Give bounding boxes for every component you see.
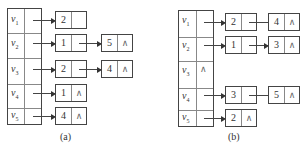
list-node: 4∧ — [268, 13, 300, 31]
pointer-arrow — [204, 95, 225, 96]
pointer-arrow — [33, 93, 55, 94]
pointer-arrow — [33, 69, 55, 70]
list-node: 5∧ — [101, 34, 133, 52]
vertex-label: v4 — [11, 87, 18, 100]
vertex-label: v5 — [11, 109, 18, 122]
pointer-arrow — [33, 43, 55, 44]
null-pointer-icon: ∧ — [200, 64, 207, 74]
vertex-label: v2 — [11, 37, 18, 50]
caption-b: (b) — [228, 131, 240, 142]
caption-a: (a) — [60, 131, 71, 142]
pointer-arrow — [204, 118, 225, 119]
vertex-label: v3 — [11, 63, 18, 76]
list-node: 5∧ — [268, 86, 300, 104]
vertex-label: v4 — [182, 90, 189, 103]
vertex-label: v1 — [11, 13, 18, 26]
pointer-arrow — [249, 22, 268, 23]
pointer-arrow — [79, 43, 101, 44]
pointer-arrow — [249, 45, 268, 46]
list-node: 2 — [55, 11, 87, 29]
list-node: 3∧ — [268, 36, 300, 54]
vertex-label: v1 — [182, 14, 189, 27]
pointer-arrow — [33, 20, 55, 21]
list-node: 4∧ — [101, 60, 133, 78]
pointer-arrow — [249, 95, 268, 96]
vertex-label: v3 — [182, 64, 189, 77]
pointer-arrow — [204, 45, 225, 46]
list-node: 1∧ — [55, 84, 87, 102]
vertex-label: v5 — [182, 111, 189, 124]
pointer-arrow — [79, 69, 101, 70]
list-node: 2∧ — [225, 109, 257, 127]
list-node: 4∧ — [55, 107, 87, 125]
pointer-arrow — [204, 22, 225, 23]
vertex-label: v2 — [182, 39, 189, 52]
pointer-arrow — [33, 116, 55, 117]
